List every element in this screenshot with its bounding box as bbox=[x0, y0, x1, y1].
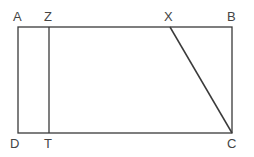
segment-xc bbox=[170, 27, 232, 133]
label-a: A bbox=[13, 9, 22, 24]
rectangle-abcd bbox=[18, 27, 232, 133]
label-b: B bbox=[227, 9, 236, 24]
label-t: T bbox=[44, 136, 52, 151]
geometry-diagram: A Z X B D T C bbox=[0, 0, 254, 157]
label-x: X bbox=[164, 9, 173, 24]
label-d: D bbox=[10, 136, 19, 151]
label-c: C bbox=[227, 136, 236, 151]
label-z: Z bbox=[44, 9, 52, 24]
